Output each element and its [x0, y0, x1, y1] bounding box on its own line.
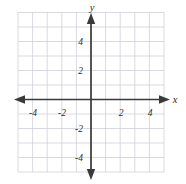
x-tick-label-neg4: -4	[29, 108, 37, 118]
x-tick-label-pos2: 2	[119, 108, 124, 118]
x-axis-label: x	[172, 94, 178, 105]
x-tick-label-neg2: -2	[58, 108, 66, 118]
x-tick-label-pos4: 4	[148, 108, 153, 118]
coordinate-plane-figure: -4 -2 2 4 4 2 -2 -4 x y	[0, 0, 186, 184]
coordinate-plane-graph: -4 -2 2 4 4 2 -2 -4 x y	[0, 0, 186, 184]
y-tick-label-neg2: -2	[75, 124, 83, 134]
y-tick-label-pos2: 2	[78, 66, 83, 76]
graph-background	[0, 0, 186, 184]
y-tick-label-neg4: -4	[75, 153, 83, 163]
y-tick-label-pos4: 4	[78, 37, 83, 47]
y-axis-label: y	[89, 2, 95, 13]
